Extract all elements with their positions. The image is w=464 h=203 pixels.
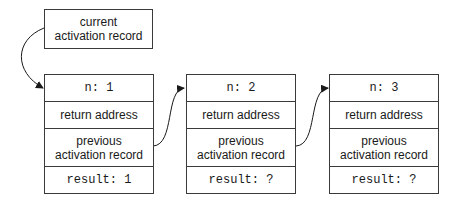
current-activation-record-box: current activation record [44, 9, 153, 49]
record-n: n: 2 [187, 75, 295, 102]
record-previous: previous activation record [187, 129, 295, 167]
activation-record-3: n: 3 return address previous activation … [329, 74, 439, 194]
record-previous: previous activation record [330, 129, 438, 167]
current-to-record1-arrow [21, 28, 44, 88]
activation-record-1: n: 1 return address previous activation … [44, 74, 154, 194]
record-result: result: ? [330, 167, 438, 193]
activation-record-2: n: 2 return address previous activation … [186, 74, 296, 194]
record-previous: previous activation record [45, 129, 153, 167]
record1-to-record2-arrow [153, 88, 184, 146]
record-n: n: 1 [45, 75, 153, 102]
record-return-address: return address [330, 102, 438, 129]
record-return-address: return address [45, 102, 153, 129]
current-activation-record-label: current activation record [54, 15, 144, 43]
record-return-address: return address [187, 102, 295, 129]
record-result: result: 1 [45, 167, 153, 193]
record-result: result: ? [187, 167, 295, 193]
record-n: n: 3 [330, 75, 438, 102]
record2-to-record3-arrow [296, 88, 328, 146]
